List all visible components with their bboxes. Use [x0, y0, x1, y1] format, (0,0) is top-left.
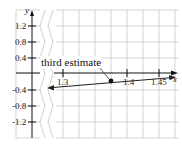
x-tick-label: 1.3 — [57, 77, 69, 87]
grid — [16, 10, 178, 138]
y-tick-label: 0.8 — [15, 37, 27, 47]
y-tick-label: 1.2 — [15, 21, 26, 31]
chart: y x 1.2 0.8 0.4 -0.4 -0.8 -1.2 1.3 1.4 1… — [0, 0, 182, 144]
third-estimate-point — [109, 79, 114, 84]
x-axis — [16, 69, 178, 77]
y-axis-label: y — [24, 5, 29, 15]
y-axis — [28, 10, 36, 138]
y-tick-label: -1.2 — [12, 117, 26, 127]
y-tick-label: 0.4 — [15, 53, 27, 63]
x-axis-label: x — [172, 74, 177, 84]
annotation-label: third estimate — [41, 56, 101, 68]
axis-break-zigzag — [40, 10, 53, 138]
y-tick-label: -0.4 — [12, 85, 27, 95]
y-tick-label: -0.8 — [12, 101, 27, 111]
